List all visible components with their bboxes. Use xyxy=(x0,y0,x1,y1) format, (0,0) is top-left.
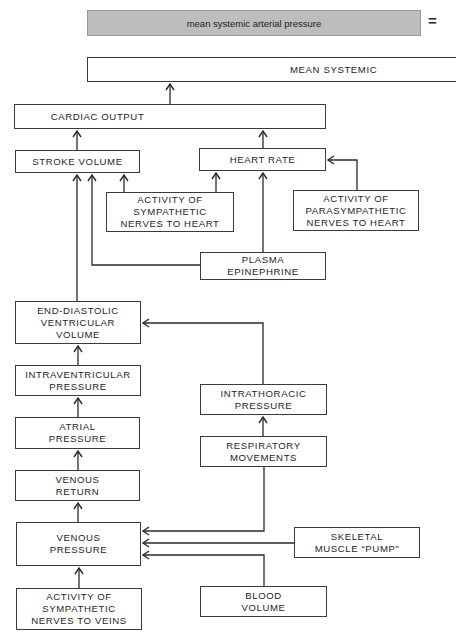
diagram-title: mean systemic arterial pressure xyxy=(87,10,421,36)
node-intraventricular-pressure: INTRAVENTRICULAR PRESSURE xyxy=(15,365,141,396)
arrowhead-up-icon xyxy=(74,398,82,404)
node-skeletal-muscle-pump-label: SKELETAL MUSCLE “PUMP” xyxy=(315,531,400,555)
arrowhead-up-icon xyxy=(75,568,83,574)
arrowhead-up-icon xyxy=(120,175,128,181)
arrowhead-left-icon xyxy=(143,319,149,327)
arrowhead-left-icon xyxy=(143,539,149,547)
arrowhead-left-icon xyxy=(328,156,334,164)
arrowhead-up-icon xyxy=(259,417,267,423)
connector-line xyxy=(143,467,264,531)
node-sympathetic-veins: ACTIVITY OF SYMPATHETIC NERVES TO VEINS xyxy=(16,588,142,630)
arrowhead-up-icon xyxy=(74,451,82,457)
node-sympathetic-veins-label: ACTIVITY OF SYMPATHETIC NERVES TO VEINS xyxy=(31,591,126,627)
connector-line xyxy=(328,160,357,190)
arrowhead-up-icon xyxy=(74,503,82,509)
node-venous-return: VENOUS RETURN xyxy=(15,470,140,501)
node-heart-rate: HEART RATE xyxy=(199,148,326,171)
node-parasympathetic-heart: ACTIVITY OF PARASYMPATHETIC NERVES TO HE… xyxy=(293,190,419,231)
node-cardiac-output: CARDIAC OUTPUT xyxy=(14,104,326,129)
arrowhead-up-icon xyxy=(212,173,220,179)
arrowhead-up-icon xyxy=(88,175,96,181)
connector-line xyxy=(143,555,264,586)
node-stroke-volume-label: STROKE VOLUME xyxy=(32,156,122,168)
node-atrial-pressure-label: ATRIAL PRESSURE xyxy=(49,421,107,445)
node-mean-systemic: MEAN SYSTEMIC xyxy=(87,57,456,82)
connector-line xyxy=(143,323,263,384)
arrowhead-left-icon xyxy=(143,527,149,535)
node-parasympathetic-heart-label: ACTIVITY OF PARASYMPATHETIC NERVES TO HE… xyxy=(305,193,406,229)
node-skeletal-muscle-pump: SKELETAL MUSCLE “PUMP” xyxy=(294,527,420,558)
node-plasma-epinephrine: PLASMA EPINEPHRINE xyxy=(200,252,326,280)
node-venous-pressure: VENOUS PRESSURE xyxy=(16,522,141,566)
node-atrial-pressure: ATRIAL PRESSURE xyxy=(15,417,140,449)
arrowhead-up-icon xyxy=(259,173,267,179)
node-sympathetic-heart: ACTIVITY OF SYMPATHETIC NERVES TO HEART xyxy=(106,192,234,232)
node-blood-volume-label: BLOOD VOLUME xyxy=(241,590,285,614)
node-mean-systemic-label: MEAN SYSTEMIC xyxy=(290,64,377,76)
node-end-diastolic-volume-label: END-DIASTOLIC VENTRICULAR VOLUME xyxy=(37,305,119,341)
node-heart-rate-label: HEART RATE xyxy=(230,154,296,166)
node-blood-volume: BLOOD VOLUME xyxy=(200,586,327,617)
node-intrathoracic-pressure-label: INTRATHORACIC PRESSURE xyxy=(221,388,307,412)
arrowhead-up-icon xyxy=(74,346,82,352)
node-respiratory-movements-label: RESPIRATORY MOVEMENTS xyxy=(226,440,300,464)
node-cardiac-output-label: CARDIAC OUTPUT xyxy=(51,111,145,123)
arrowhead-up-icon xyxy=(73,175,81,181)
diagram-title-text: mean systemic arterial pressure xyxy=(187,18,322,29)
node-intraventricular-pressure-label: INTRAVENTRICULAR PRESSURE xyxy=(25,369,130,393)
node-intrathoracic-pressure: INTRATHORACIC PRESSURE xyxy=(200,384,327,415)
node-stroke-volume: STROKE VOLUME xyxy=(15,150,140,173)
node-sympathetic-heart-label: ACTIVITY OF SYMPATHETIC NERVES TO HEART xyxy=(121,194,220,230)
arrowhead-left-icon xyxy=(143,551,149,559)
node-plasma-epinephrine-label: PLASMA EPINEPHRINE xyxy=(227,254,299,278)
node-end-diastolic-volume: END-DIASTOLIC VENTRICULAR VOLUME xyxy=(15,301,141,344)
node-venous-pressure-label: VENOUS PRESSURE xyxy=(50,532,108,556)
node-venous-return-label: VENOUS RETURN xyxy=(55,474,99,498)
node-respiratory-movements: RESPIRATORY MOVEMENTS xyxy=(200,436,327,467)
equals-sign: = xyxy=(428,12,437,29)
arrowhead-up-icon xyxy=(259,131,267,137)
arrowhead-up-icon xyxy=(166,84,174,90)
arrowhead-up-icon xyxy=(73,131,81,137)
